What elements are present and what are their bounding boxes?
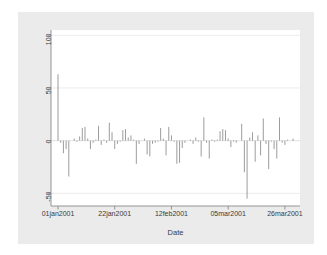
plot-region — [51, 30, 300, 206]
y-tick-label: 50 — [45, 86, 52, 126]
x-tick-label: 26mar2001 — [255, 210, 315, 217]
chart-figure: 100500-50 Closing price change Date 01ja… — [0, 0, 327, 255]
y-tick-label: 100 — [45, 34, 52, 74]
x-tick-label: 12feb2001 — [141, 210, 201, 217]
x-axis-title: Date — [51, 228, 300, 237]
x-tick-label: 22jan2001 — [85, 210, 145, 217]
x-tick-label: 05mar2001 — [198, 210, 258, 217]
spike-plot-svg — [51, 30, 300, 206]
x-tick-label: 01jan2001 — [28, 210, 88, 217]
y-tick-label: 0 — [45, 139, 52, 179]
